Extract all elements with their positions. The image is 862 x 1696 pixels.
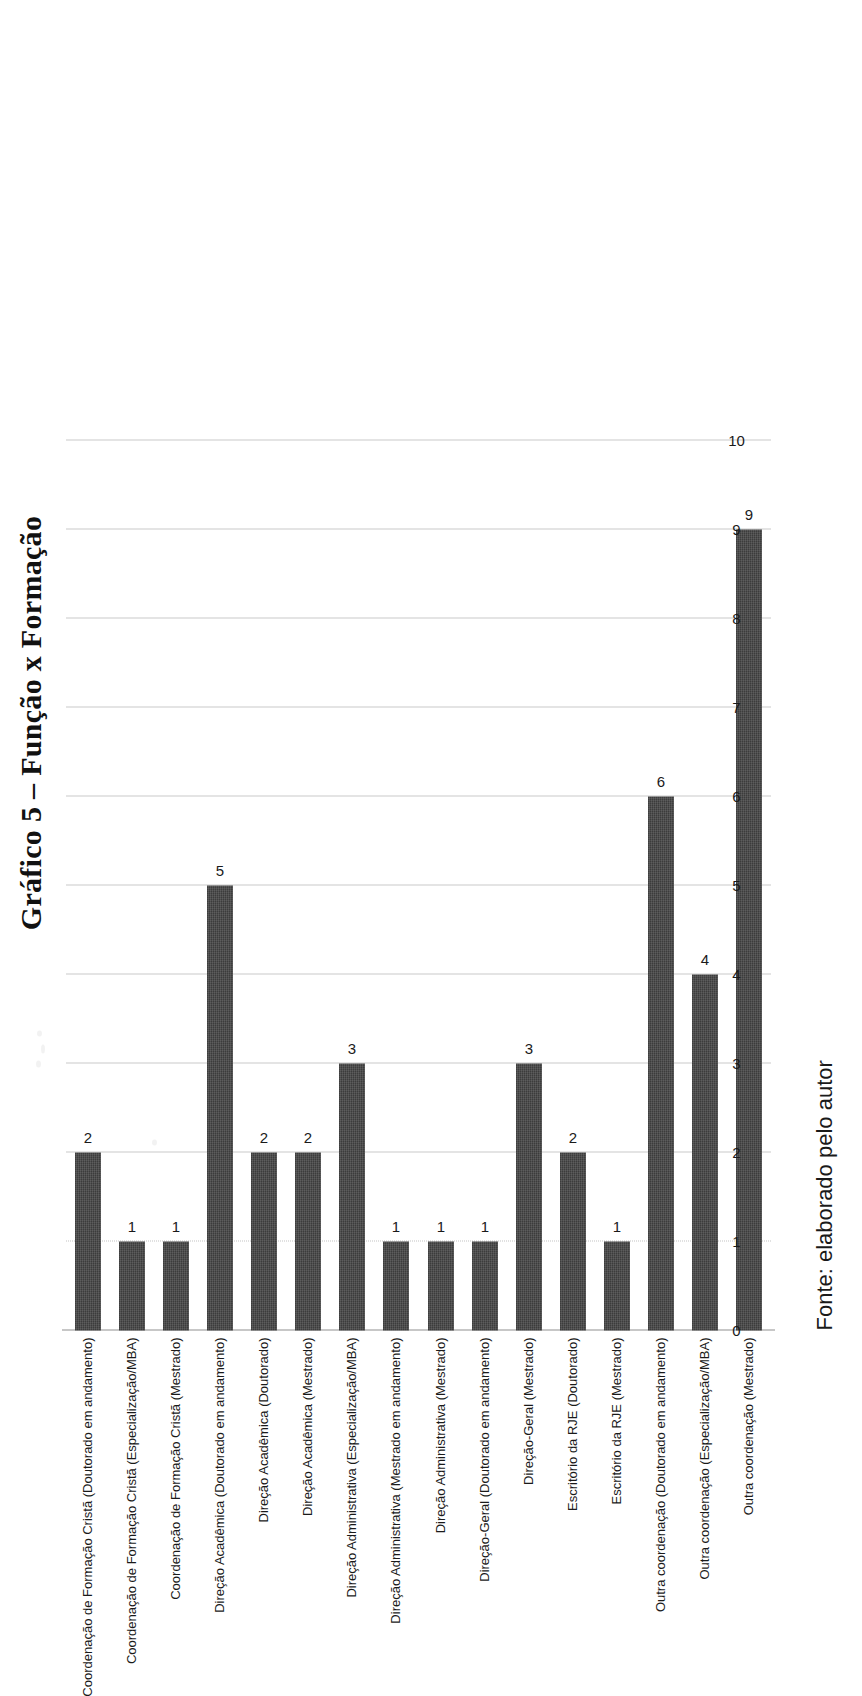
bar bbox=[560, 1152, 586, 1330]
bar bbox=[163, 1241, 189, 1330]
bar-row: 2 bbox=[75, 440, 101, 1330]
plot-area: 2115223111321649 bbox=[66, 440, 771, 1330]
value-tick-0: 0 bbox=[725, 1322, 749, 1339]
category-label: Direção-Geral (Mestrado) bbox=[522, 1337, 535, 1484]
value-tick-4: 4 bbox=[725, 966, 749, 983]
bar-value-label: 9 bbox=[740, 506, 758, 523]
bar bbox=[648, 796, 674, 1330]
category-label: Coordenação de Formação Cristã (Especial… bbox=[125, 1337, 138, 1664]
category-label: Outra coordenação (Doutorado em andament… bbox=[654, 1337, 667, 1612]
bar-row: 1 bbox=[472, 440, 498, 1330]
value-tick-9: 9 bbox=[725, 521, 749, 538]
page-title: Gráfico 5 – Função x Formação bbox=[14, 0, 48, 1445]
bar bbox=[207, 885, 233, 1330]
category-label: Outra coordenação (Mestrado) bbox=[742, 1337, 755, 1515]
category-label: Coordenação de Formação Cristã (Mestrado… bbox=[169, 1337, 182, 1599]
bar bbox=[119, 1241, 145, 1330]
bar bbox=[428, 1241, 454, 1330]
bar-row: 3 bbox=[516, 440, 542, 1330]
category-label: Direção Acadêmica (Doutorado) bbox=[257, 1337, 270, 1522]
bar-row: 2 bbox=[560, 440, 586, 1330]
bar-value-label: 1 bbox=[387, 1218, 405, 1235]
bar-row: 3 bbox=[339, 440, 365, 1330]
category-label: Direção-Geral (Doutorado em andamento) bbox=[478, 1337, 491, 1581]
bar-value-label: 1 bbox=[608, 1218, 626, 1235]
category-label: Escritório da RJE (Doutorado) bbox=[566, 1337, 579, 1510]
category-label: Outra coordenação (Especialização/MBA) bbox=[698, 1337, 711, 1579]
bar-row: 4 bbox=[692, 440, 718, 1330]
bar bbox=[516, 1063, 542, 1330]
bar-row: 6 bbox=[648, 440, 674, 1330]
bar-value-label: 2 bbox=[299, 1129, 317, 1146]
category-label: Coordenação de Formação Cristã (Doutorad… bbox=[81, 1337, 94, 1696]
scan-speckle bbox=[41, 1044, 45, 1053]
bar-value-label: 1 bbox=[432, 1218, 450, 1235]
bar bbox=[472, 1241, 498, 1330]
bar bbox=[339, 1063, 365, 1330]
bar-value-label: 1 bbox=[167, 1218, 185, 1235]
bar bbox=[736, 529, 762, 1330]
bar-value-label: 2 bbox=[564, 1129, 582, 1146]
value-tick-5: 5 bbox=[725, 877, 749, 894]
bar-row: 5 bbox=[207, 440, 233, 1330]
category-label: Escritório da RJE (Mestrado) bbox=[610, 1337, 623, 1504]
bar bbox=[692, 974, 718, 1330]
bar-value-label: 3 bbox=[520, 1040, 538, 1057]
bar-value-label: 5 bbox=[211, 862, 229, 879]
bar-value-label: 3 bbox=[343, 1040, 361, 1057]
bar bbox=[251, 1152, 277, 1330]
category-label: Direção Administrativa (Especialização/M… bbox=[345, 1337, 358, 1597]
bar-value-label: 4 bbox=[696, 951, 714, 968]
bar bbox=[75, 1152, 101, 1330]
scan-speckle bbox=[36, 1060, 41, 1067]
bar-value-label: 2 bbox=[79, 1129, 97, 1146]
bar bbox=[295, 1152, 321, 1330]
bar-value-label: 1 bbox=[123, 1218, 141, 1235]
value-tick-10: 10 bbox=[725, 432, 749, 449]
bar-row: 1 bbox=[163, 440, 189, 1330]
value-tick-1: 1 bbox=[725, 1233, 749, 1250]
value-tick-7: 7 bbox=[725, 699, 749, 716]
value-tick-3: 3 bbox=[725, 1055, 749, 1072]
bar-value-label: 2 bbox=[255, 1129, 273, 1146]
bar-row: 1 bbox=[383, 440, 409, 1330]
bar bbox=[383, 1241, 409, 1330]
source-note: Fonte: elaborado pelo autor bbox=[812, 1060, 838, 1330]
bar-row: 2 bbox=[251, 440, 277, 1330]
category-label: Direção Acadêmica (Doutorado em andament… bbox=[213, 1337, 226, 1612]
bar-value-label: 1 bbox=[476, 1218, 494, 1235]
bar-row: 1 bbox=[604, 440, 630, 1330]
value-tick-8: 8 bbox=[725, 610, 749, 627]
bar-row: 1 bbox=[119, 440, 145, 1330]
bar-row: 1 bbox=[428, 440, 454, 1330]
value-tick-2: 2 bbox=[725, 1144, 749, 1161]
category-label: Direção Acadêmica (Mestrado) bbox=[301, 1337, 314, 1515]
value-tick-6: 6 bbox=[725, 788, 749, 805]
bar-row: 2 bbox=[295, 440, 321, 1330]
bar bbox=[604, 1241, 630, 1330]
bar-value-label: 6 bbox=[652, 773, 670, 790]
category-axis-labels: Coordenação de Formação Cristã (Doutorad… bbox=[66, 1337, 771, 1445]
category-label: Direção Administrativa (Mestrado em anda… bbox=[389, 1337, 402, 1623]
scan-speckle bbox=[37, 1030, 42, 1036]
category-label: Direção Administrativa (Mestrado) bbox=[434, 1337, 447, 1533]
